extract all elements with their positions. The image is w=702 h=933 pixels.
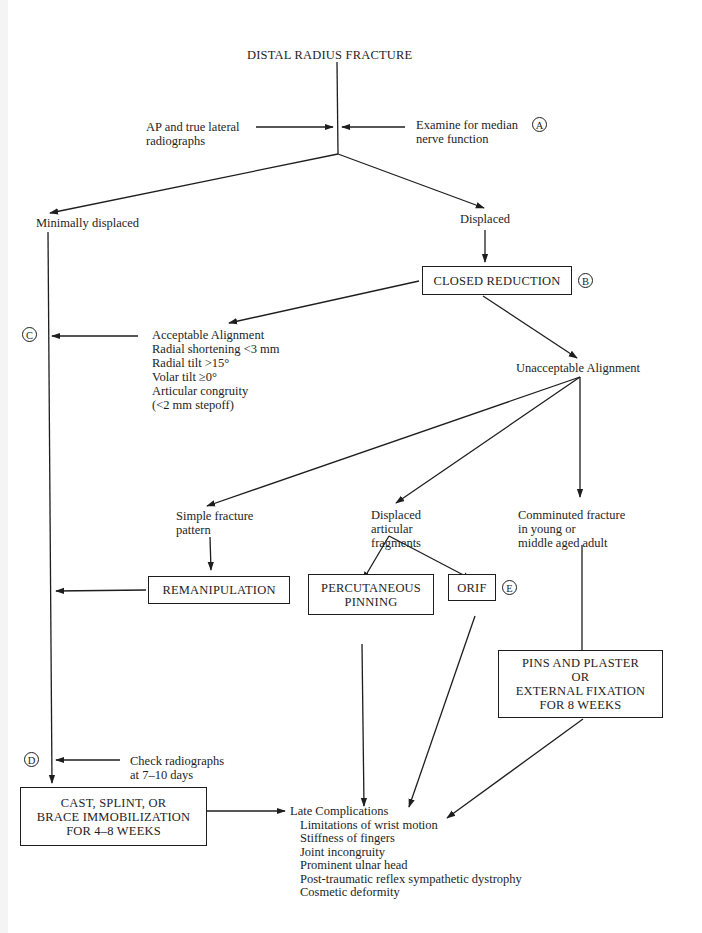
articular-line-2: articular <box>371 522 421 536</box>
pins-line-2: OR <box>572 670 590 684</box>
check-line-1: Check radiographs <box>130 754 224 768</box>
check-radiographs-note: Check radiographs at 7–10 days <box>130 754 224 782</box>
simple-fracture-label: Simple fracture pattern <box>176 509 253 537</box>
radiographs-note: AP and true lateral radiographs <box>146 120 240 148</box>
simple-line-2: pattern <box>176 523 253 537</box>
median-nerve-line-2: nerve function <box>416 132 518 146</box>
minimally-displaced-label: Minimally displaced <box>36 216 139 230</box>
percutaneous-pinning-box: PERCUTANEOUS PINNING <box>308 574 434 615</box>
flowchart-title: DISTAL RADIUS FRACTURE <box>247 48 412 62</box>
comminuted-line-1: Comminuted fracture <box>518 508 625 522</box>
complication-item: Cosmetic deformity <box>290 886 522 900</box>
acceptable-alignment-criteria: Acceptable Alignment Radial shortening <… <box>152 328 280 412</box>
unacceptable-alignment-label: Unacceptable Alignment <box>516 361 640 375</box>
simple-line-1: Simple fracture <box>176 509 253 523</box>
marker-d: D <box>24 752 39 767</box>
percutaneous-line-1: PERCUTANEOUS <box>321 581 421 595</box>
closed-reduction-box: CLOSED REDUCTION <box>422 266 572 295</box>
orif-box: ORIF <box>448 574 496 601</box>
comminuted-line-2: in young or <box>518 522 625 536</box>
complication-item: Prominent ulnar head <box>290 859 522 873</box>
complication-item: Post-traumatic reflex sympathetic dystro… <box>290 873 522 887</box>
immobilization-box: CAST, SPLINT, OR BRACE IMMOBILIZATION FO… <box>20 787 207 846</box>
remanipulation-box: REMANIPULATION <box>148 576 290 604</box>
articular-line-1: Displaced <box>371 508 421 522</box>
displaced-articular-label: Displaced articular fragments <box>371 508 421 550</box>
orif-label: ORIF <box>457 581 486 595</box>
criterion: (<2 mm stepoff) <box>152 398 280 412</box>
remanipulation-label: REMANIPULATION <box>162 583 275 597</box>
pins-line-1: PINS AND PLASTER <box>522 656 639 670</box>
immobilization-line-2: BRACE IMMOBILIZATION <box>37 810 191 824</box>
percutaneous-line-2: PINNING <box>345 595 398 609</box>
check-line-2: at 7–10 days <box>130 768 224 782</box>
comminuted-fracture-label: Comminuted fracture in young or middle a… <box>518 508 625 550</box>
pins-line-3: EXTERNAL FIXATION <box>516 684 646 698</box>
marker-c: C <box>22 327 37 342</box>
acceptable-heading: Acceptable Alignment <box>152 328 280 342</box>
criterion: Volar tilt ≥0° <box>152 370 280 384</box>
marker-a: A <box>532 117 547 132</box>
criterion: Radial shortening <3 mm <box>152 342 280 356</box>
complication-item: Joint incongruity <box>290 846 522 860</box>
immobilization-line-3: FOR 4–8 WEEKS <box>66 824 161 838</box>
marker-b: B <box>578 273 593 288</box>
pins-plaster-box: PINS AND PLASTER OR EXTERNAL FIXATION FO… <box>498 650 663 718</box>
median-nerve-line-1: Examine for median <box>416 118 518 132</box>
late-complications: Late Complications Limitations of wrist … <box>290 805 522 900</box>
articular-line-3: fragments <box>371 536 421 550</box>
criterion: Radial tilt >15° <box>152 356 280 370</box>
complication-item: Limitations of wrist motion <box>290 819 522 833</box>
radiographs-line-2: radiographs <box>146 134 240 148</box>
late-complications-heading: Late Complications <box>290 805 522 819</box>
displaced-label: Displaced <box>460 212 510 226</box>
criterion: Articular congruity <box>152 384 280 398</box>
complication-item: Stiffness of fingers <box>290 832 522 846</box>
median-nerve-note: Examine for median nerve function <box>416 118 518 146</box>
comminuted-line-3: middle aged adult <box>518 536 625 550</box>
marker-e: E <box>502 580 517 595</box>
closed-reduction-label: CLOSED REDUCTION <box>433 274 560 288</box>
immobilization-line-1: CAST, SPLINT, OR <box>61 796 167 810</box>
radiographs-line-1: AP and true lateral <box>146 120 240 134</box>
pins-line-4: FOR 8 WEEKS <box>540 698 622 712</box>
